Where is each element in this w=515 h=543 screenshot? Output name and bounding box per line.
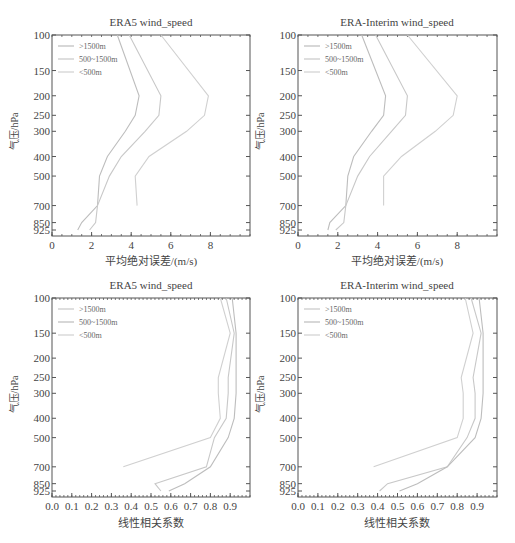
x-tick-label: 0.0 bbox=[291, 500, 305, 512]
y-tick-label: 700 bbox=[280, 461, 297, 473]
y-tick-label: 300 bbox=[280, 387, 297, 399]
y-tick-label: 500 bbox=[280, 432, 297, 444]
y-tick-label: 400 bbox=[280, 412, 297, 424]
x-tick-label: 0.6 bbox=[411, 500, 425, 512]
y-tick-label: 250 bbox=[280, 371, 297, 383]
legend-label: <500m bbox=[325, 331, 349, 340]
series-line bbox=[380, 298, 482, 491]
y-tick-label: 150 bbox=[280, 327, 297, 339]
plot-frame bbox=[298, 298, 497, 497]
legend-label: >1500m bbox=[325, 305, 353, 314]
x-tick-label: 0.7 bbox=[430, 500, 444, 512]
x-tick-label: 0.5 bbox=[391, 500, 405, 512]
chart-erai-corr: 0.00.10.20.30.40.50.60.70.80.91001502002… bbox=[0, 0, 515, 543]
series-line bbox=[400, 298, 484, 491]
y-tick-label: 925 bbox=[280, 485, 297, 497]
x-tick-label: 0.4 bbox=[371, 500, 385, 512]
y-tick-label: 100 bbox=[280, 292, 297, 304]
x-tick-label: 0.2 bbox=[331, 500, 345, 512]
x-tick-label: 0.9 bbox=[470, 500, 484, 512]
x-tick-label: 0.8 bbox=[450, 500, 464, 512]
x-tick-label: 0.3 bbox=[351, 500, 365, 512]
y-tick-label: 200 bbox=[280, 352, 297, 364]
series-line bbox=[374, 298, 474, 467]
x-tick-label: 0.1 bbox=[311, 500, 325, 512]
legend-label: 500~1500m bbox=[325, 318, 364, 327]
x-axis-label-erai-corr: 线性相关系数 bbox=[298, 514, 496, 530]
